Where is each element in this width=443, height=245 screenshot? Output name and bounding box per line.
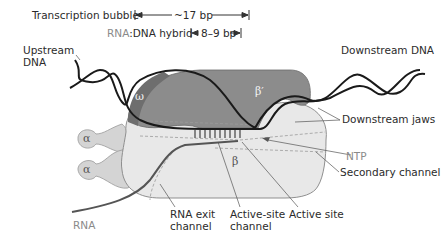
beta-label: β (232, 155, 238, 168)
omega-label: ω (135, 90, 144, 103)
alpha-label-1: α (83, 132, 90, 145)
active-site-channel-label-2: channel (230, 220, 272, 232)
upstream-dna-label-2: DNA (23, 56, 46, 68)
ntp-label: NTP (346, 150, 367, 162)
transcription-bubble-label: Transcription bubble (32, 9, 139, 21)
active-site-label: Active site (289, 208, 344, 220)
alpha-label-2: α (83, 163, 90, 176)
active-site-channel-label-1: Active-site (230, 208, 285, 220)
hybrid-rna-text: RNA (107, 27, 129, 39)
hybrid-rest-text: :DNA hybrid (129, 27, 192, 39)
upstream-dna-label-1: Upstream (23, 44, 74, 56)
bubble-size-label: ~17 bp (174, 9, 213, 21)
downstream-jaws-label: Downstream jaws (342, 113, 435, 125)
downstream-dna-label: Downstream DNA (341, 44, 434, 56)
rna-exit-channel-label-2: channel (170, 220, 212, 232)
hybrid-label: RNA:DNA hybrid (107, 27, 193, 39)
beta-prime-label: β′ (255, 85, 264, 98)
hybrid-size-label: 8–9 bp (201, 27, 236, 39)
rna-exit-channel-label-1: RNA exit (170, 208, 215, 220)
secondary-channel-label: Secondary channel (340, 166, 441, 178)
rna-label: RNA (73, 219, 95, 231)
